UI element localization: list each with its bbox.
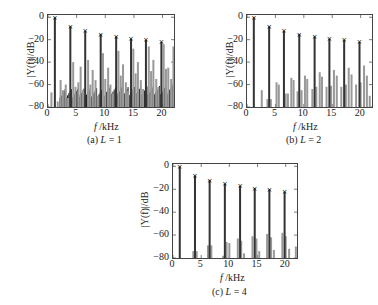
x-tick-label: 0 — [164, 258, 180, 269]
x-tick-label: 15 — [249, 258, 265, 269]
y-axis-label-a: |Y(f)|/dB — [25, 20, 36, 100]
svg-text:×: × — [158, 38, 164, 46]
x-tick-label: 5 — [192, 258, 208, 269]
svg-text:×: × — [266, 186, 272, 194]
caption-suffix-c: = 4 — [231, 286, 247, 297]
svg-text:×: × — [98, 31, 104, 39]
svg-text:×: × — [113, 33, 119, 41]
y-tick-label: −60 — [147, 228, 169, 239]
svg-text:×: × — [128, 35, 134, 43]
svg-text:×: × — [207, 177, 213, 185]
y-tick-label: −40 — [147, 205, 169, 216]
plot-area-b: ×××××××× — [246, 14, 373, 108]
x-tick-label: 20 — [277, 258, 293, 269]
x-tick-label: 15 — [125, 107, 141, 118]
svg-text:×: × — [357, 38, 363, 46]
x-axis-label-a: f /kHz — [94, 121, 119, 132]
chart-panel-c: ×××××××× 0−20−40−60−80 05101520 |Y(f)|/d… — [90, 150, 300, 305]
x-tick-label: 10 — [295, 107, 311, 118]
plot-svg-c: ×××××××× — [173, 164, 297, 258]
svg-text:×: × — [326, 35, 332, 43]
chart-panel-a: ×××××××× 0−20−40−60−80 05101520 |Y(f)|/d… — [0, 0, 190, 150]
x-tick-label: 5 — [68, 107, 84, 118]
svg-text:×: × — [82, 27, 88, 35]
svg-text:×: × — [192, 172, 198, 180]
caption-prefix-b: (b) — [286, 134, 300, 145]
x-axis-unit-b: /kHz — [296, 121, 318, 132]
svg-text:×: × — [52, 15, 58, 22]
caption-prefix-c: (c) — [212, 286, 226, 297]
x-tick-label: 10 — [96, 107, 112, 118]
svg-text:×: × — [282, 188, 288, 196]
caption-suffix-a: = 1 — [106, 134, 122, 145]
svg-text:×: × — [143, 36, 149, 44]
svg-text:×: × — [296, 31, 302, 39]
y-axis-label-b: |Y(f)|/dB — [224, 20, 235, 100]
svg-text:×: × — [312, 33, 318, 41]
x-tick-label: 20 — [154, 107, 170, 118]
y-tick-label: −20 — [147, 182, 169, 193]
caption-a: (a) L = 1 — [87, 134, 122, 145]
x-tick-label: 10 — [220, 258, 236, 269]
y-tick-label: 0 — [147, 159, 169, 170]
svg-text:×: × — [341, 36, 347, 44]
x-tick-label: 5 — [266, 107, 282, 118]
svg-text:×: × — [177, 164, 183, 171]
svg-text:×: × — [252, 185, 258, 193]
plot-area-a: ×××××××× — [47, 14, 175, 108]
x-tick-label: 0 — [238, 107, 254, 118]
x-tick-label: 0 — [39, 107, 55, 118]
svg-text:×: × — [67, 23, 73, 31]
plot-svg-b: ×××××××× — [247, 15, 372, 107]
x-axis-label-b: f /kHz — [293, 121, 318, 132]
x-axis-label-c: f /kHz — [220, 272, 245, 283]
svg-text:×: × — [251, 15, 257, 22]
chart-panel-b: ×××××××× 0−20−40−60−80 05101520 |Y(f)|/d… — [190, 0, 378, 150]
x-tick-label: 20 — [352, 107, 368, 118]
y-axis-label-c: |Y(f)|/dB — [139, 170, 150, 250]
svg-text:×: × — [281, 27, 287, 35]
caption-suffix-b: = 2 — [306, 134, 322, 145]
x-axis-unit-a: /kHz — [97, 121, 119, 132]
svg-text:×: × — [237, 182, 243, 190]
caption-prefix-a: (a) — [87, 134, 101, 145]
x-axis-unit-c: /kHz — [223, 272, 245, 283]
caption-c: (c) L = 4 — [212, 286, 247, 297]
svg-text:×: × — [266, 23, 272, 31]
plot-svg-a: ×××××××× — [48, 15, 174, 107]
caption-b: (b) L = 2 — [286, 134, 321, 145]
svg-text:×: × — [222, 180, 228, 188]
plot-area-c: ×××××××× — [172, 163, 298, 259]
x-tick-label: 15 — [323, 107, 339, 118]
